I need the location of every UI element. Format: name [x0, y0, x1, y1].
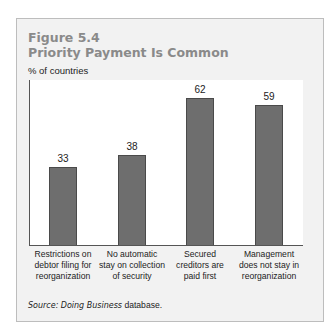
category-label-line: reorganization — [235, 271, 303, 282]
category-label: Restrictions ondebtor filing forreorgani… — [29, 249, 97, 282]
bar — [118, 155, 146, 245]
category-label-line: Secured — [166, 249, 234, 260]
category-label-line: Restrictions on — [29, 249, 97, 260]
bar-value-label: 59 — [249, 91, 289, 102]
category-label: No automaticstay on collectionof securit… — [98, 249, 166, 282]
category-label-line: Management — [235, 249, 303, 260]
category-label-line: of security — [98, 271, 166, 282]
bar — [49, 167, 77, 245]
bar — [255, 105, 283, 245]
figure-number: Figure 5.4 — [28, 30, 100, 45]
category-label: Securedcreditors arepaid first — [166, 249, 234, 282]
y-axis-line — [29, 80, 30, 246]
bar-value-label: 38 — [112, 141, 152, 152]
source-rest: database. — [124, 300, 162, 310]
category-label-line: does not stay in — [235, 260, 303, 271]
category-label-line: No automatic — [98, 249, 166, 260]
category-label-line: stay on collection — [98, 260, 166, 271]
source-note: Source: Doing Business database. — [28, 300, 162, 310]
category-label: Managementdoes not stay inreorganization — [235, 249, 303, 282]
bar — [186, 98, 214, 245]
source-italic: Doing Business — [61, 301, 122, 310]
category-label-line: paid first — [166, 271, 234, 282]
bar-value-label: 33 — [43, 153, 83, 164]
category-label-line: debtor filing for — [29, 260, 97, 271]
source-label: Source: — [28, 301, 58, 310]
category-label-line: reorganization — [29, 271, 97, 282]
y-axis-label: % of countries — [28, 65, 88, 76]
bar-value-label: 62 — [180, 84, 220, 95]
category-label-line: creditors are — [166, 260, 234, 271]
x-axis-line — [29, 245, 303, 246]
figure-title: Priority Payment Is Common — [28, 45, 229, 60]
